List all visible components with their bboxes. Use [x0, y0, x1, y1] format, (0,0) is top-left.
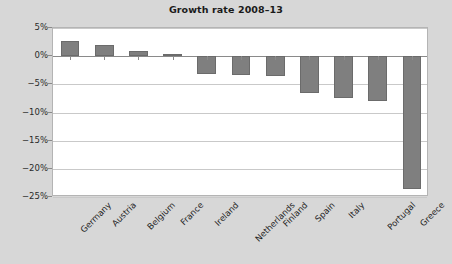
- chart-title: Growth rate 2008–13: [0, 4, 452, 15]
- x-tick-mark: [70, 56, 71, 60]
- y-tick-label: −15%: [2, 135, 48, 145]
- x-tick-label-text: Greece: [418, 200, 446, 228]
- x-tick-mark: [412, 56, 413, 60]
- gridline--20: [53, 169, 427, 170]
- x-tick-label-germany: Germany: [79, 200, 114, 235]
- x-axis: GermanyAustriaBelgiumFranceIrelandNether…: [52, 196, 428, 264]
- x-tick-label-text: Belgium: [146, 200, 178, 232]
- gridline--10: [53, 113, 427, 114]
- plot-area: [52, 27, 428, 196]
- x-tick-label-portugal: Portugal: [385, 200, 417, 232]
- y-tick-label: −25%: [2, 191, 48, 201]
- x-tick-label-spain: Spain: [313, 200, 337, 224]
- bar-greece: [403, 56, 422, 188]
- bar-spain: [300, 56, 319, 93]
- bar-austria: [95, 45, 114, 56]
- x-tick-label-text: Ireland: [212, 200, 240, 228]
- x-tick-label-greece: Greece: [418, 200, 446, 228]
- x-tick-label-text: France: [178, 200, 205, 227]
- x-tick-mark: [275, 56, 276, 60]
- y-tick-label: 0%: [2, 50, 48, 60]
- x-tick-label-text: Germany: [79, 200, 114, 235]
- x-tick-mark: [241, 56, 242, 60]
- bar-portugal: [368, 56, 387, 101]
- x-tick-mark: [104, 56, 105, 60]
- x-tick-label-text: Austria: [110, 200, 138, 228]
- x-tick-mark: [173, 56, 174, 60]
- x-tick-mark: [207, 56, 208, 60]
- y-tick-label: 5%: [2, 22, 48, 32]
- x-tick-label-text: Italy: [346, 200, 366, 220]
- bar-italy: [334, 56, 353, 98]
- x-tick-label-text: Spain: [313, 200, 337, 224]
- y-tick-label: −5%: [2, 78, 48, 88]
- y-tick-label: −20%: [2, 163, 48, 173]
- x-tick-label-text: Portugal: [385, 200, 417, 232]
- x-tick-mark: [378, 56, 379, 60]
- x-tick-mark: [138, 56, 139, 60]
- x-tick-mark: [309, 56, 310, 60]
- chart-figure: Growth rate 2008–13 5%0%−5%−10%−15%−20%−…: [0, 0, 452, 264]
- y-axis: 5%0%−5%−10%−15%−20%−25%: [0, 27, 48, 196]
- x-tick-mark: [344, 56, 345, 60]
- bar-germany: [61, 41, 80, 56]
- x-tick-label-ireland: Ireland: [212, 200, 240, 228]
- y-tick-label: −10%: [2, 107, 48, 117]
- x-tick-label-austria: Austria: [110, 200, 138, 228]
- x-tick-label-italy: Italy: [346, 200, 366, 220]
- x-tick-label-belgium: Belgium: [146, 200, 178, 232]
- gridline-5: [53, 28, 427, 29]
- x-tick-label-france: France: [178, 200, 205, 227]
- gridline--15: [53, 141, 427, 142]
